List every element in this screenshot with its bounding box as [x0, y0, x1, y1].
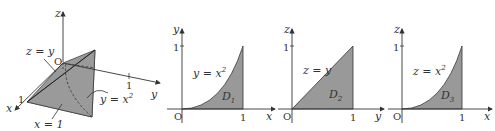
v-axis-label: y: [172, 23, 180, 36]
y-tick-1: 1: [126, 80, 132, 91]
h-axis-label: x: [266, 110, 273, 123]
h-tick-label: 1: [240, 112, 246, 123]
h-tick-label: 1: [459, 112, 465, 123]
panel-d2: z y 1 1 O z = y D2: [278, 23, 384, 123]
label-x-eq-1: x = 1: [34, 118, 63, 131]
label-z-eq-y: z = y: [25, 45, 55, 58]
origin-label: O: [393, 111, 401, 122]
origin-label: O: [54, 56, 62, 67]
v-axis-label: z: [283, 23, 290, 36]
label-y-eq-x2: y = x2: [99, 92, 134, 106]
origin-label: O: [174, 111, 182, 122]
h-axis-label: x: [484, 110, 491, 123]
figure-canvas: z 1 y 1 x O z = y y = x2 x = 1: [0, 0, 495, 131]
y-axis-label: y: [150, 88, 158, 101]
v-tick-label: 1: [283, 42, 289, 53]
region-d2: [292, 46, 353, 109]
h-axis-label: y: [374, 110, 382, 123]
x-tick-1: 1: [18, 94, 24, 105]
v-tick-label: 1: [393, 42, 399, 53]
z-axis-label: z: [54, 7, 61, 20]
panel-3d-solid: z 1 y 1 x O z = y y = x2 x = 1: [6, 7, 160, 131]
panel-d1: y x 1 1 O y = x2 D1: [167, 23, 275, 123]
curve-label: z = x2: [412, 64, 446, 78]
curve-label: y = x2: [192, 66, 227, 80]
v-tick-label: 1: [173, 42, 179, 53]
x-axis-label: x: [6, 102, 13, 115]
h-tick-label: 1: [350, 112, 356, 123]
v-axis-label: z: [393, 23, 400, 36]
origin-label: O: [283, 111, 291, 122]
curve-label: z = y: [302, 64, 332, 77]
panel-d3: z x 1 1 O z = x2 D3: [388, 23, 492, 123]
